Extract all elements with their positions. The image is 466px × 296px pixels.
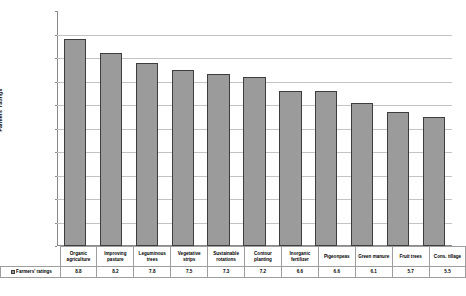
bar[interactable] bbox=[387, 112, 409, 246]
bar-slot bbox=[237, 11, 273, 246]
table-row-categories: Organic agricultureImproving pastureLegu… bbox=[1, 247, 466, 267]
category-cell: Cons. tillage bbox=[429, 247, 466, 267]
table-row-values: Farmers' ratings 8.88.27.87.57.37.26.66.… bbox=[1, 267, 466, 278]
bar-slot bbox=[57, 11, 93, 246]
category-cell: Green manure bbox=[355, 247, 392, 267]
bar[interactable] bbox=[315, 91, 337, 246]
category-label: Fruit trees bbox=[393, 254, 429, 260]
legend-entry: Farmers' ratings bbox=[1, 267, 61, 278]
bar-slot bbox=[129, 11, 165, 246]
bar-slot bbox=[344, 11, 380, 246]
value-cell: 7.5 bbox=[171, 267, 208, 278]
bar[interactable] bbox=[207, 74, 229, 246]
category-cell: Sustainable rotations bbox=[208, 247, 245, 267]
value-cell: 5.7 bbox=[392, 267, 429, 278]
data-table: Organic agricultureImproving pastureLegu… bbox=[0, 246, 466, 278]
value-cell: 7.3 bbox=[208, 267, 245, 278]
bar[interactable] bbox=[64, 39, 86, 246]
bar[interactable] bbox=[243, 77, 265, 246]
y-axis-title: Farmers' ratings bbox=[0, 70, 3, 150]
category-label: Organic agriculture bbox=[61, 251, 97, 263]
category-cell: Pigeonpeas bbox=[318, 247, 355, 267]
category-label: Inorganic fertilizer bbox=[282, 251, 318, 263]
legend-swatch-icon bbox=[11, 270, 15, 274]
category-label: Contour planting bbox=[245, 251, 281, 263]
category-label: Cons. tillage bbox=[430, 254, 466, 260]
category-label: Pigeonpeas bbox=[319, 254, 355, 260]
bar-slot bbox=[308, 11, 344, 246]
bar[interactable] bbox=[100, 53, 122, 246]
value-cell: 7.2 bbox=[245, 267, 282, 278]
bar-slot bbox=[93, 11, 129, 246]
value-cell: 6.6 bbox=[318, 267, 355, 278]
category-cell: Improving pasture bbox=[97, 247, 134, 267]
value-cell: 5.5 bbox=[429, 267, 466, 278]
bar-slot bbox=[165, 11, 201, 246]
category-label: Vegetative strips bbox=[171, 251, 207, 263]
category-label: Improving pasture bbox=[97, 251, 133, 263]
legend-spacer bbox=[1, 247, 61, 267]
category-cell: Inorganic fertilizer bbox=[281, 247, 318, 267]
bar[interactable] bbox=[172, 70, 194, 246]
legend-label: Farmers' ratings bbox=[16, 269, 52, 275]
value-cell: 7.8 bbox=[134, 267, 171, 278]
bar[interactable] bbox=[136, 63, 158, 246]
value-cell: 8.2 bbox=[97, 267, 134, 278]
category-label: Green manure bbox=[356, 254, 392, 260]
bar[interactable] bbox=[423, 117, 445, 246]
bars-layer bbox=[57, 11, 452, 246]
bar[interactable] bbox=[351, 103, 373, 246]
category-cell: Contour planting bbox=[245, 247, 282, 267]
bar-slot bbox=[380, 11, 416, 246]
category-cell: Leguminous trees bbox=[134, 247, 171, 267]
value-cell: 6.1 bbox=[355, 267, 392, 278]
category-cell: Organic agriculture bbox=[60, 247, 97, 267]
category-label: Leguminous trees bbox=[134, 251, 170, 263]
bar-slot bbox=[201, 11, 237, 246]
plot-area bbox=[57, 11, 452, 246]
bar[interactable] bbox=[279, 91, 301, 246]
category-label: Sustainable rotations bbox=[208, 251, 244, 263]
value-cell: 6.6 bbox=[281, 267, 318, 278]
value-cell: 8.8 bbox=[60, 267, 97, 278]
category-cell: Fruit trees bbox=[392, 247, 429, 267]
bar-slot bbox=[272, 11, 308, 246]
category-cell: Vegetative strips bbox=[171, 247, 208, 267]
bar-slot bbox=[416, 11, 452, 246]
